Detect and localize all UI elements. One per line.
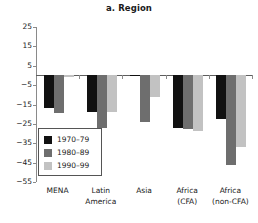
legend-swatch-icon [44,162,52,170]
bar [107,75,117,112]
bar [236,75,246,147]
chart-container: a. Region 25155−5−15−25−35−45−55 1970–79… [0,0,258,223]
bar [87,75,97,112]
chart-title: a. Region [0,3,258,13]
bar [97,75,107,127]
y-tick-mark [33,27,36,28]
bar [54,75,64,113]
bar [216,75,226,119]
bar [183,75,193,128]
y-tick-mark [33,46,36,47]
bar [226,75,236,164]
legend-label: 1980–89 [57,149,89,157]
x-axis-label-line: Africa [203,186,258,197]
bar [130,75,140,76]
y-tick-label: −25 [10,120,32,128]
legend-item: 1980–89 [44,146,97,159]
x-axis-labels: MENALatinAmericaAsiaAfrica(CFA)Africa(no… [36,186,252,220]
x-axis-label-line: America [73,197,128,208]
y-tick-mark [33,182,36,183]
x-tick-mark [79,75,80,79]
y-tick-label: −55 [10,178,32,186]
x-tick-mark [252,75,253,79]
legend-label: 1970–79 [57,136,89,144]
x-tick-mark [209,75,210,79]
y-tick-label: −35 [10,139,32,147]
y-tick-label: 15 [10,42,32,50]
y-tick-mark [33,66,36,67]
y-tick-label: −15 [10,101,32,109]
y-tick-mark [33,143,36,144]
bar [150,75,160,96]
x-axis-group-label: Africa(non-CFA) [203,186,258,207]
x-axis-label-line: (non-CFA) [203,197,258,208]
chart-legend: 1970–791980–891990–99 [38,128,102,176]
y-tick-label: −5 [10,81,32,89]
y-tick-mark [33,163,36,164]
y-tick-label: 25 [10,23,32,31]
legend-swatch-icon [44,149,52,157]
bar [193,75,203,130]
bar [64,75,74,77]
x-tick-mark [122,75,123,79]
legend-item: 1990–99 [44,159,97,172]
bar [140,75,150,122]
legend-item: 1970–79 [44,133,97,146]
x-tick-mark [166,75,167,79]
y-tick-mark [33,105,36,106]
y-tick-mark [33,85,36,86]
y-tick-mark [33,124,36,125]
y-tick-label: 5 [10,62,32,70]
bar [44,75,54,108]
legend-swatch-icon [44,136,52,144]
legend-label: 1990–99 [57,162,89,170]
y-tick-label: −45 [10,159,32,167]
bar [173,75,183,127]
